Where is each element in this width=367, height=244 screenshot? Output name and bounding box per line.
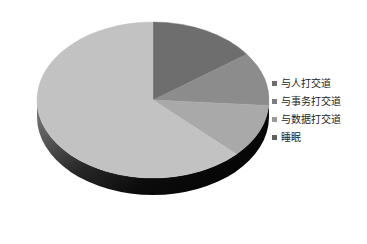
chart-legend: 与人打交道与事务打交道与数据打交道睡眠 <box>272 76 367 145</box>
square-marker-icon <box>272 135 277 140</box>
legend-item-label: 睡眠 <box>281 130 301 145</box>
legend-item[interactable]: 与人打交道 <box>272 76 367 91</box>
square-marker-icon <box>272 81 277 86</box>
legend-item[interactable]: 睡眠 <box>272 130 367 145</box>
pie-chart-figure: 与人打交道与事务打交道与数据打交道睡眠 <box>0 0 367 244</box>
legend-item-label: 与事务打交道 <box>281 94 341 109</box>
legend-item-label: 与数据打交道 <box>281 112 341 127</box>
square-marker-icon <box>272 117 277 122</box>
legend-item[interactable]: 与事务打交道 <box>272 94 367 109</box>
legend-item[interactable]: 与数据打交道 <box>272 112 367 127</box>
legend-item-label: 与人打交道 <box>281 76 331 91</box>
pie-slices-group <box>37 22 269 178</box>
square-marker-icon <box>272 99 277 104</box>
